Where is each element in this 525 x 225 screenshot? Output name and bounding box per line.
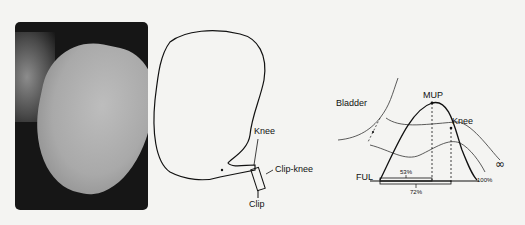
label-100-percent: 100%	[477, 177, 492, 183]
pressure-profile	[380, 102, 477, 180]
label-53-percent: 53%	[400, 169, 412, 175]
label-ful: FUL	[356, 172, 373, 182]
label-clip: Clip	[249, 199, 265, 209]
label-bladder: Bladder	[336, 98, 367, 108]
label-mup: MUP	[423, 90, 443, 100]
label-knee-c: Knee	[452, 116, 473, 126]
label-72-percent: 72%	[410, 189, 422, 195]
svg-text:∞: ∞	[495, 157, 505, 171]
label-clip-knee: Clip-knee	[275, 164, 313, 174]
diagrams: ∞	[0, 0, 525, 225]
bladder-outline	[154, 31, 265, 180]
bladder-wall-curve	[338, 78, 398, 140]
label-knee-b: Knee	[254, 126, 275, 136]
